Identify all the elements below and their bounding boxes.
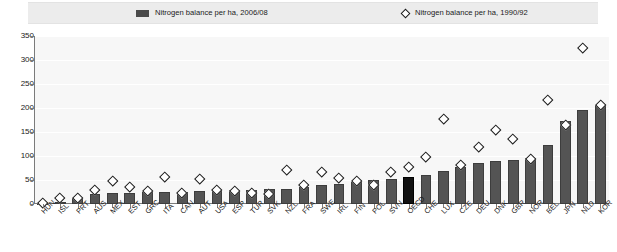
chart-legend: Nitrogen balance per ha, 2006/08 Nitroge… bbox=[28, 2, 598, 24]
x-axis-tick-mark bbox=[461, 204, 462, 208]
gridline bbox=[35, 156, 609, 157]
plot-area bbox=[34, 36, 609, 204]
x-axis-tick-mark bbox=[269, 204, 270, 208]
x-axis-tick-mark bbox=[356, 204, 357, 208]
x-axis-label-isl: ISL bbox=[57, 202, 71, 216]
gridline bbox=[35, 180, 609, 181]
y-axis-tick-mark bbox=[30, 180, 34, 181]
x-axis-tick-mark bbox=[200, 204, 201, 208]
legend-item-bars-label: Nitrogen balance per ha, 2006/08 bbox=[155, 6, 268, 20]
y-axis-tick-mark bbox=[30, 84, 34, 85]
x-axis-tick-mark bbox=[60, 204, 61, 208]
y-axis-tick-mark bbox=[30, 156, 34, 157]
x-axis-tick-mark bbox=[287, 204, 288, 208]
x-axis-tick-mark bbox=[391, 204, 392, 208]
x-axis-tick-mark bbox=[513, 204, 514, 208]
open-diamond-swatch-icon bbox=[400, 9, 409, 18]
x-axis-tick-mark bbox=[252, 204, 253, 208]
x-axis-tick-mark bbox=[130, 204, 131, 208]
legend-item-bars: Nitrogen balance per ha, 2006/08 bbox=[136, 6, 268, 20]
legend-item-markers-label: Nitrogen balance per ha, 1990/92 bbox=[415, 6, 528, 20]
x-axis-tick-mark bbox=[95, 204, 96, 208]
x-axis-tick-mark bbox=[234, 204, 235, 208]
chart-root: Nitrogen balance per ha, 2006/08 Nitroge… bbox=[0, 0, 617, 252]
x-axis-tick-mark bbox=[112, 204, 113, 208]
x-axis-tick-mark bbox=[304, 204, 305, 208]
y-axis: 050100150200250300350 bbox=[0, 0, 34, 252]
x-axis-tick-mark bbox=[426, 204, 427, 208]
legend-item-markers: Nitrogen balance per ha, 1990/92 bbox=[400, 6, 528, 20]
filled-rectangle-swatch-icon bbox=[136, 10, 149, 17]
y-axis-tick-mark bbox=[30, 60, 34, 61]
x-axis-tick-mark bbox=[443, 204, 444, 208]
x-axis-tick-mark bbox=[339, 204, 340, 208]
x-axis-tick-mark bbox=[531, 204, 532, 208]
x-axis-tick-mark bbox=[182, 204, 183, 208]
x-axis-tick-mark bbox=[600, 204, 601, 208]
gridline bbox=[35, 132, 609, 133]
x-axis-tick-mark bbox=[478, 204, 479, 208]
y-axis-tick-mark bbox=[30, 108, 34, 109]
x-axis-tick-mark bbox=[43, 204, 44, 208]
x-axis-tick-mark bbox=[409, 204, 410, 208]
gridline bbox=[35, 36, 609, 37]
y-axis-tick-mark bbox=[30, 132, 34, 133]
gridline bbox=[35, 108, 609, 109]
gridline bbox=[35, 84, 609, 85]
x-axis-tick-mark bbox=[322, 204, 323, 208]
x-axis-tick-mark bbox=[496, 204, 497, 208]
x-axis-tick-mark bbox=[565, 204, 566, 208]
x-axis-label-ita: ITA bbox=[162, 202, 175, 215]
y-axis-tick-mark bbox=[30, 204, 34, 205]
gridline bbox=[35, 60, 609, 61]
y-axis-tick-mark bbox=[30, 36, 34, 37]
x-axis-tick-mark bbox=[548, 204, 549, 208]
x-axis-tick-mark bbox=[217, 204, 218, 208]
x-axis-tick-mark bbox=[147, 204, 148, 208]
x-axis-tick-mark bbox=[583, 204, 584, 208]
x-axis-tick-mark bbox=[78, 204, 79, 208]
x-axis-tick-mark bbox=[165, 204, 166, 208]
x-axis-tick-mark bbox=[374, 204, 375, 208]
